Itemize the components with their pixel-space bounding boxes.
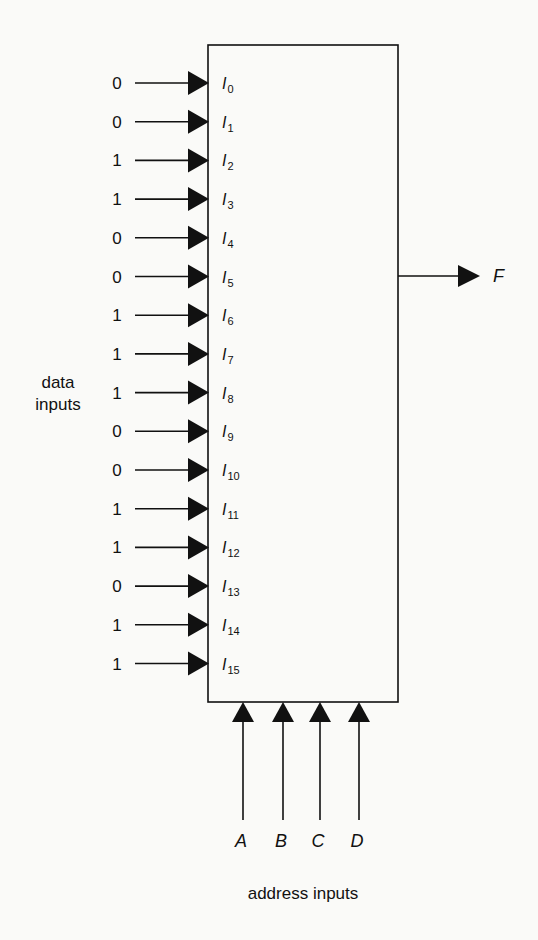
address-inputs-label: address inputs: [248, 884, 359, 903]
arrowhead-icon: [188, 419, 209, 443]
arrowhead-icon: [232, 702, 254, 722]
arrowhead-icon: [188, 303, 209, 327]
data-input-row: 1I8: [112, 381, 233, 405]
input-label: I2: [222, 152, 234, 172]
input-value: 0: [112, 461, 121, 480]
input-label: I4: [222, 230, 234, 250]
address-label: C: [312, 831, 326, 851]
arrowhead-icon: [188, 265, 209, 289]
arrowhead-icon: [458, 265, 480, 287]
input-value: 1: [112, 151, 121, 170]
data-input-row: 1I14: [112, 613, 239, 637]
input-value: 0: [112, 422, 121, 441]
data-input-row: 0I4: [112, 226, 233, 250]
input-value: 1: [112, 616, 121, 635]
input-label: I8: [222, 385, 234, 405]
input-label: I12: [222, 539, 240, 559]
input-value: 0: [112, 113, 121, 132]
data-input-row: 1I15: [112, 652, 239, 676]
input-label: I7: [222, 346, 234, 366]
arrowhead-icon: [188, 652, 209, 676]
arrowhead-icon: [188, 613, 209, 637]
input-label: I9: [222, 423, 234, 443]
data-input-row: 1I6: [112, 303, 233, 327]
data-inputs-label-line1: data: [41, 373, 75, 392]
output-arrow: [398, 265, 480, 287]
address-label: B: [275, 831, 287, 851]
input-value: 1: [112, 345, 121, 364]
address-input-c: C: [309, 702, 331, 851]
address-label: A: [234, 831, 247, 851]
data-input-row: 1I2: [112, 148, 233, 172]
data-input-row: 0I13: [112, 574, 239, 598]
input-label: I15: [222, 656, 240, 676]
data-input-row: 0I0: [112, 71, 233, 95]
input-label: I10: [222, 462, 240, 482]
input-value: 1: [112, 655, 121, 674]
input-label: I11: [222, 501, 239, 521]
input-value: 0: [112, 74, 121, 93]
arrowhead-icon: [272, 702, 294, 722]
input-value: 0: [112, 577, 121, 596]
arrowhead-icon: [188, 497, 209, 521]
data-input-row: 0I10: [112, 458, 239, 482]
input-label: I1: [222, 114, 234, 134]
arrowhead-icon: [188, 342, 209, 366]
input-value: 1: [112, 384, 121, 403]
arrowhead-icon: [188, 148, 209, 172]
data-input-row: 0I5: [112, 265, 233, 289]
input-value: 1: [112, 306, 121, 325]
arrowhead-icon: [188, 71, 209, 95]
input-label: I0: [222, 75, 234, 95]
input-label: I5: [222, 269, 234, 289]
input-value: 1: [112, 500, 121, 519]
address-input-d: D: [348, 702, 370, 851]
input-value: 0: [112, 268, 121, 287]
input-label: I13: [222, 578, 240, 598]
address-input-b: B: [272, 702, 294, 851]
arrowhead-icon: [188, 535, 209, 559]
output-label: F: [493, 266, 505, 286]
arrowhead-icon: [188, 574, 209, 598]
input-value: 1: [112, 538, 121, 557]
input-label: I3: [222, 191, 234, 211]
address-label: D: [351, 831, 364, 851]
input-label: I6: [222, 307, 234, 327]
arrowhead-icon: [188, 458, 209, 482]
arrowhead-icon: [188, 110, 209, 134]
input-label: I14: [222, 617, 240, 637]
arrowhead-icon: [309, 702, 331, 722]
mux-box: [208, 45, 398, 702]
arrowhead-icon: [188, 226, 209, 250]
arrowhead-icon: [188, 187, 209, 211]
arrowhead-icon: [188, 381, 209, 405]
multiplexer-diagram: 0I00I11I21I30I40I51I61I71I80I90I101I111I…: [0, 0, 538, 940]
data-input-row: 1I11: [112, 497, 239, 521]
input-value: 1: [112, 190, 121, 209]
data-input-row: 1I7: [112, 342, 233, 366]
address-inputs-group: ABCD: [232, 702, 370, 851]
arrowhead-icon: [348, 702, 370, 722]
data-inputs-group: 0I00I11I21I30I40I51I61I71I80I90I101I111I…: [112, 71, 239, 676]
input-value: 0: [112, 229, 121, 248]
data-input-row: 1I3: [112, 187, 233, 211]
data-input-row: 0I9: [112, 419, 233, 443]
address-input-a: A: [232, 702, 254, 851]
data-input-row: 0I1: [112, 110, 233, 134]
data-input-row: 1I12: [112, 535, 239, 559]
data-inputs-label-line2: inputs: [35, 395, 80, 414]
